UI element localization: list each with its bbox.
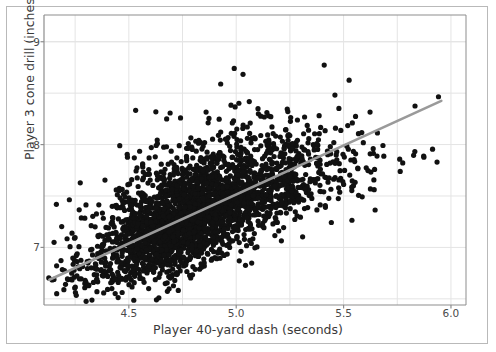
x-tick-label: 6.0	[443, 307, 460, 319]
x-axis-title: Player 40-yard dash (seconds)	[0, 322, 496, 337]
x-tick-label: 5.0	[228, 307, 245, 319]
x-tick-label: 4.5	[120, 307, 137, 319]
plot-area: 4.5 5.0 5.5 6.0 7 8 9 Player 40-yard das…	[0, 0, 496, 352]
scatter-plot-canvas	[0, 0, 496, 352]
chart-figure: 4.5 5.0 5.5 6.0 7 8 9 Player 40-yard das…	[0, 0, 496, 352]
y-tick-label: 7	[30, 241, 40, 253]
y-axis-title: Player 3 cone drill (inches)	[22, 0, 37, 160]
x-tick-label: 5.5	[335, 307, 352, 319]
